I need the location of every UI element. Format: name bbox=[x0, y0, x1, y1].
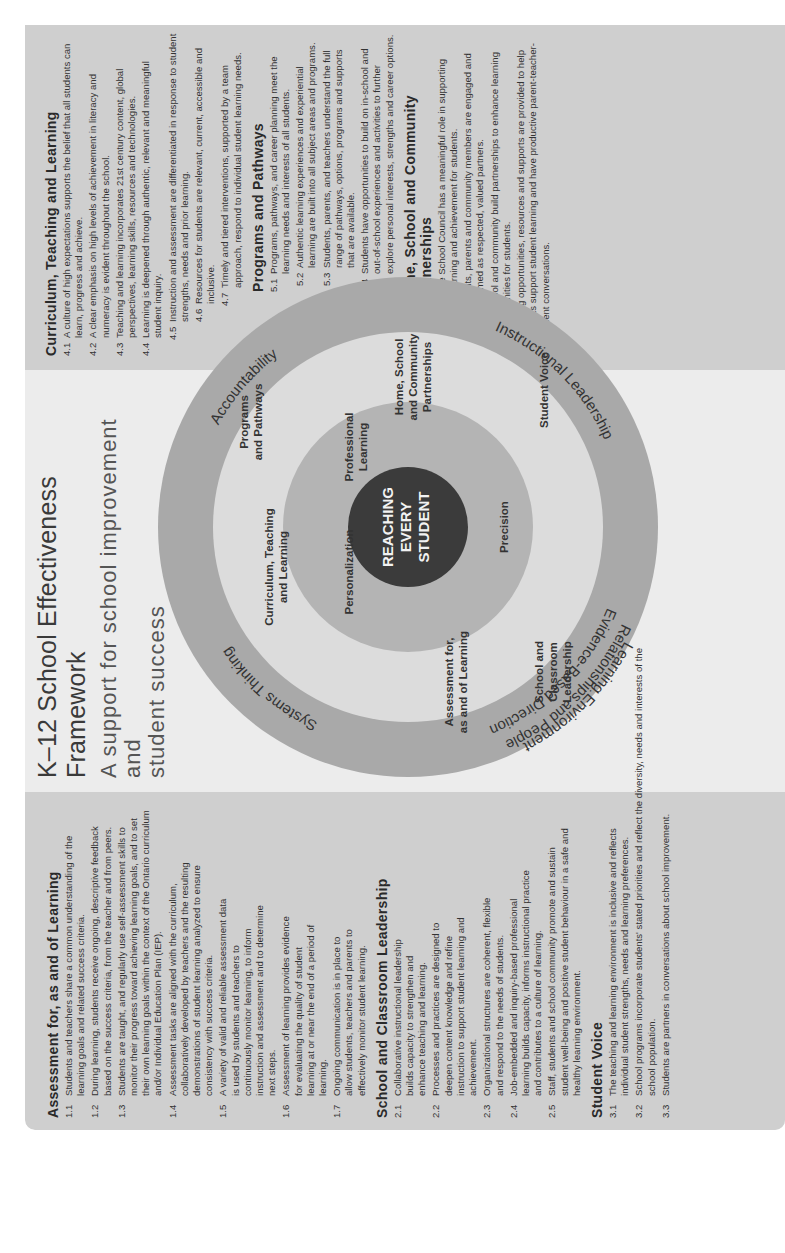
item-number: 1.4 bbox=[167, 1096, 216, 1118]
item-number: 1.1 bbox=[63, 1096, 87, 1118]
item-text: Students are taught, and regularly use s… bbox=[116, 804, 165, 1096]
item-number: 4.1 bbox=[61, 338, 85, 356]
item-text: Students and teachers share a common und… bbox=[63, 804, 87, 1096]
item-text: Timely and tiered interventions, support… bbox=[219, 33, 243, 288]
item-text: Resources for students are relevant, cur… bbox=[193, 33, 217, 304]
item-number: 3.1 bbox=[607, 1096, 631, 1118]
section-title-curriculum: Curriculum, Teaching and Learning bbox=[43, 33, 59, 356]
item-number: 1.3 bbox=[116, 1096, 165, 1118]
item-text: Students have opportunities to build on … bbox=[359, 33, 396, 274]
item-number: 2.2 bbox=[430, 1096, 479, 1118]
item-text: A variety of valid and reliable assessme… bbox=[217, 894, 278, 1096]
item-text: A culture of high expectations supports … bbox=[61, 33, 85, 338]
item-text: Assessment tasks are aligned with the cu… bbox=[167, 844, 216, 1096]
item-text: Job-embedded and inquiry-based professio… bbox=[508, 864, 545, 1096]
list-item: 2.2Processes and practices are designed … bbox=[430, 804, 479, 1118]
list-item: 1.7Ongoing communication is in place to … bbox=[331, 804, 368, 1118]
label-school-leadership: School andClassroomLeadership bbox=[533, 641, 573, 703]
label-student-voice: Student Voice bbox=[538, 352, 550, 428]
list-item: 4.3Teaching and learning incorporates 21… bbox=[114, 33, 138, 356]
item-number: 4.2 bbox=[87, 338, 111, 356]
list-item: 1.5A variety of valid and reliable asses… bbox=[217, 804, 278, 1118]
item-text: During learning, students receive ongoin… bbox=[89, 804, 113, 1096]
item-number: 2.1 bbox=[392, 1096, 429, 1118]
item-text: Organizational structures are coherent, … bbox=[481, 884, 505, 1096]
framework-diagram: Systems Thinking Accountability Instruct… bbox=[153, 272, 663, 782]
item-text: Authentic learning experiences and exper… bbox=[294, 33, 318, 268]
list-item: 4.2A clear emphasis on high levels of ac… bbox=[87, 33, 111, 356]
item-text: Ongoing communication is in place to all… bbox=[331, 914, 368, 1096]
section-title-student-voice: Student Voice bbox=[589, 804, 605, 1118]
item-text: Assessment of learning provides evidence… bbox=[280, 914, 329, 1096]
label-home-school: Home, Schooland CommunityPartnerships bbox=[393, 333, 433, 420]
item-number: 2.4 bbox=[508, 1096, 545, 1118]
item-number: 2.5 bbox=[546, 1096, 583, 1118]
item-number: 3.3 bbox=[660, 1096, 672, 1118]
list-item: 1.1Students and teachers share a common … bbox=[63, 804, 87, 1118]
left-panel: Assessment for, as and of Learning 1.1St… bbox=[25, 792, 785, 1130]
item-text: Teaching and learning incorporates 21st … bbox=[114, 33, 138, 338]
list-item: 1.3Students are taught, and regularly us… bbox=[116, 804, 165, 1118]
item-text: A clear emphasis on high levels of achie… bbox=[87, 33, 111, 338]
list-item: 2.1Collaborative instructional leadershi… bbox=[392, 804, 429, 1118]
label-precision: Precision bbox=[498, 501, 510, 553]
label-personalization: Personalization bbox=[343, 530, 355, 615]
item-number: 3.2 bbox=[633, 1096, 657, 1118]
item-text: The School Council has a meaningful role… bbox=[436, 33, 460, 294]
item-text: Programs, pathways, and career planning … bbox=[268, 33, 292, 274]
item-text: Staff, students and school community pro… bbox=[546, 824, 583, 1096]
item-text: The teaching and learning environment is… bbox=[607, 788, 631, 1096]
title-band: K–12 School Effectiveness Framework A su… bbox=[25, 370, 165, 792]
item-text: Collaborative instructional leadership b… bbox=[392, 924, 429, 1096]
item-number: 2.3 bbox=[481, 1096, 505, 1118]
list-item: 2.4Job-embedded and inquiry-based profes… bbox=[508, 804, 545, 1118]
item-text: Processes and practices are designed to … bbox=[430, 914, 479, 1096]
item-number: 1.6 bbox=[280, 1096, 329, 1118]
subtitle-line-1: A support for school improvement and bbox=[96, 418, 145, 778]
list-item: 1.2During learning, students receive ong… bbox=[89, 804, 113, 1118]
item-text: Students, parents, and teachers understa… bbox=[321, 33, 358, 268]
item-number: 1.5 bbox=[217, 1096, 278, 1118]
framework-sheet: Assessment for, as and of Learning 1.1St… bbox=[25, 25, 785, 1130]
page-title: K–12 School Effectiveness Framework bbox=[33, 384, 91, 778]
list-item: 2.5Staff, students and school community … bbox=[546, 804, 583, 1118]
list-item: 1.4Assessment tasks are aligned with the… bbox=[167, 804, 216, 1118]
list-item: 2.3Organizational structures are coheren… bbox=[481, 804, 505, 1118]
section-title-assessment: Assessment for, as and of Learning bbox=[45, 804, 61, 1118]
item-number: 1.7 bbox=[331, 1096, 368, 1118]
list-item: 1.6Assessment of learning provides evide… bbox=[280, 804, 329, 1118]
item-number: 1.2 bbox=[89, 1096, 113, 1118]
school-leadership-list: 2.1Collaborative instructional leadershi… bbox=[392, 804, 583, 1118]
list-item: 4.1A culture of high expectations suppor… bbox=[61, 33, 85, 356]
item-number: 4.3 bbox=[114, 338, 138, 356]
assessment-list: 1.1Students and teachers share a common … bbox=[63, 804, 368, 1118]
section-title-school-leadership: School and Classroom Leadership bbox=[374, 804, 390, 1118]
